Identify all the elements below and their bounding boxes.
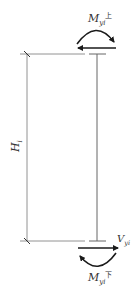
shear-label: Vyi (117, 233, 130, 247)
height-label: Hi (9, 140, 24, 153)
bottom-moment-arc-icon (80, 253, 116, 266)
top-moment-arc-icon (77, 30, 114, 44)
column-diagram: Myi上 Vyi Myi下 Hi (0, 0, 135, 298)
top-moment-label: Myi上 (87, 11, 112, 27)
bottom-moment-label: Myi下 (87, 271, 112, 286)
